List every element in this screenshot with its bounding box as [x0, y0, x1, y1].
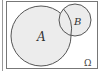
set-a-label: A — [36, 30, 46, 44]
venn-diagram: A B Ω — [0, 0, 99, 71]
set-b-label: B — [73, 16, 81, 27]
universe-label: Ω — [84, 58, 91, 68]
